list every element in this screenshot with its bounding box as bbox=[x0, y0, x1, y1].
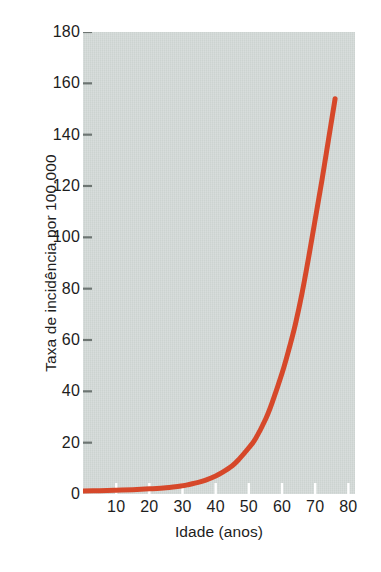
plot-area bbox=[83, 32, 355, 494]
y-tick-label: 80 bbox=[62, 280, 80, 298]
y-axis-tick-labels: 020406080100120140160180 bbox=[40, 32, 80, 494]
x-tick-label: 30 bbox=[173, 498, 191, 516]
incidence-curve bbox=[83, 99, 335, 491]
y-tick-label: 20 bbox=[62, 434, 80, 452]
y-tick-label: 140 bbox=[53, 126, 80, 144]
x-tick-label: 40 bbox=[207, 498, 225, 516]
x-tick-label: 70 bbox=[306, 498, 324, 516]
y-tick-label: 0 bbox=[71, 485, 80, 503]
y-tick-label: 180 bbox=[53, 23, 80, 41]
y-tick-label: 60 bbox=[62, 331, 80, 349]
x-tick-label: 60 bbox=[273, 498, 291, 516]
incidence-rate-by-age-chart: Taxa de incidência por 100.000 020406080… bbox=[0, 0, 381, 572]
x-axis-title: Idade (anos) bbox=[83, 523, 355, 541]
y-tick-label: 120 bbox=[53, 177, 80, 195]
x-axis-tick-labels: 1020304050607080 bbox=[83, 498, 355, 522]
x-tick-label: 10 bbox=[107, 498, 125, 516]
plot-svg bbox=[83, 32, 355, 494]
y-tick-label: 100 bbox=[53, 228, 80, 246]
y-axis-tick-marks bbox=[83, 32, 92, 443]
x-tick-label: 50 bbox=[240, 498, 258, 516]
x-tick-label: 80 bbox=[339, 498, 357, 516]
y-tick-label: 160 bbox=[53, 74, 80, 92]
y-tick-label: 40 bbox=[62, 382, 80, 400]
x-tick-label: 20 bbox=[140, 498, 158, 516]
